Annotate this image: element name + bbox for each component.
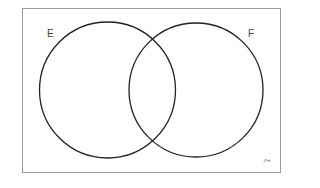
universal-set-symbol: ξ bbox=[264, 159, 271, 162]
set-f-label: F bbox=[248, 29, 254, 39]
set-e-label: E bbox=[47, 29, 54, 39]
universal-set-frame bbox=[23, 9, 281, 173]
